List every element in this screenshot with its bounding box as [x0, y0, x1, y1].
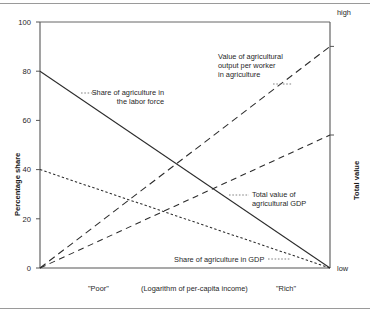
annotation-gdp-share: Share of agriculture in GDP — [174, 255, 264, 264]
x-label-rich: "Rich" — [276, 284, 296, 293]
annotation-output-per-worker-line2: output per worker — [218, 61, 283, 70]
annotation-total-value-gdp-line2: agricultural GDP — [252, 199, 306, 208]
annotation-labor-force: Share of agriculture in the labor force — [60, 88, 164, 106]
y-axis-title: Percentage share — [13, 153, 22, 216]
annotation-output-per-worker-line1: Value of agricultural — [218, 52, 283, 61]
chart-canvas — [0, 0, 370, 314]
annotation-labor-force-line2: the labor force — [60, 97, 164, 106]
figure: 100 80 60 40 20 0 high low Percentage sh… — [0, 0, 370, 314]
y-tick-label-80: 80 — [9, 67, 31, 76]
x-label-poor: "Poor" — [88, 284, 109, 293]
y2-label-high: high — [337, 8, 351, 17]
y-tick-label-60: 60 — [9, 116, 31, 125]
series-gdp-share — [40, 170, 330, 268]
annotation-output-per-worker-line3: in agriculture — [218, 70, 283, 79]
series-output-per-worker — [40, 46, 330, 268]
annotation-total-value-gdp-line1: Total value of — [252, 190, 306, 199]
y2-axis-title: Total value — [352, 161, 361, 200]
y-tick-label-0: 0 — [9, 264, 31, 273]
y-tick-label-20: 20 — [9, 215, 31, 224]
annotation-labor-force-line1: Share of agriculture in — [60, 88, 164, 97]
y-tick-label-100: 100 — [9, 18, 31, 27]
annotation-total-value-gdp: Total value of agricultural GDP — [252, 190, 306, 208]
y2-label-low: low — [337, 264, 348, 273]
x-axis-caption: (Logarithm of per-capita income) — [141, 284, 248, 293]
annotation-output-per-worker: Value of agricultural output per worker … — [218, 52, 283, 80]
